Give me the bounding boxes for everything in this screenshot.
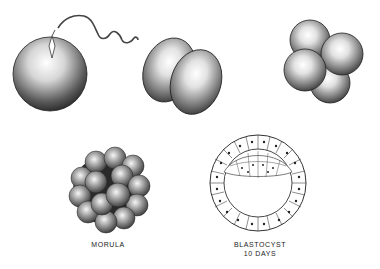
blastocyst-label-line2: 10 DAYS (225, 249, 295, 258)
fertilized-egg (13, 16, 138, 112)
morula-label-text: MORULA (91, 241, 125, 248)
blastocyst-label: BLASTOCYST 10 DAYS (225, 240, 295, 258)
four-cell-stage (284, 20, 363, 103)
morula-label: MORULA (78, 240, 138, 249)
embryo-development-diagram (0, 0, 380, 269)
blastocyst (210, 135, 306, 231)
morula (69, 147, 150, 233)
two-cell-stage (133, 30, 230, 121)
blastocyst-label-line1: BLASTOCYST (225, 240, 295, 249)
